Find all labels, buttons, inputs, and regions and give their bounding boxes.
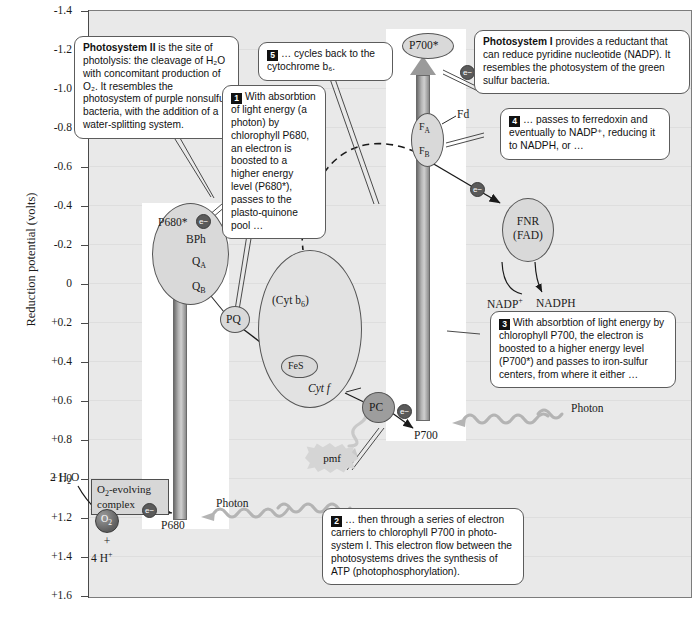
p680-label: P680 — [161, 519, 185, 531]
y-tick-label: +1.6 — [26, 590, 72, 602]
y-tick-label: -1.0 — [26, 83, 72, 95]
fnr-label-line2: (FAD) — [502, 229, 554, 241]
qa-label: QA — [192, 255, 206, 271]
o2-label: O2 — [101, 514, 112, 527]
fa-label: FA — [419, 122, 430, 135]
y-tick-label: +0.8 — [26, 434, 72, 446]
bph-label: BPh — [186, 233, 206, 245]
callout-step2-text: … then through a series of electron carr… — [331, 514, 512, 577]
p680-star-label: P680* — [158, 216, 187, 228]
y-tick-label: -0.8 — [26, 122, 72, 134]
cyt-b6-label: (Cyt b6) — [272, 294, 309, 310]
y-tick-label: 0 — [26, 278, 72, 290]
fb-label: FB — [419, 146, 430, 159]
callout-step3-text: With absorbtion of light energy by chlor… — [499, 317, 664, 380]
callout-psii-bold: Photosystem II — [83, 42, 155, 53]
p700-label: P700 — [414, 429, 438, 441]
plus-sign: + — [95, 535, 119, 547]
y-tick-label: -0.6 — [26, 161, 72, 173]
z-scheme-figure: Reduction potential (volts) -1.4 -1.2 -1… — [0, 0, 698, 625]
callout-step-3[interactable]: 3With absorbtion of light energy by chlo… — [490, 311, 676, 388]
qb-label: QB — [192, 280, 206, 296]
y-tick-label: -1.4 — [26, 5, 72, 17]
callout-psii-text: is the site of photolysis: the cleavage … — [83, 42, 228, 130]
callout-step-4[interactable]: 4… passes to ferredoxin and eventually t… — [500, 108, 670, 160]
electron-icon: e− — [470, 182, 485, 197]
callout-step5-text: … cycles back to the cytochrome b₆. — [267, 48, 375, 72]
callout-step-1[interactable]: 1With absorbtion of light energy (a phot… — [222, 85, 326, 239]
nadp-plus-label: NADP+ — [487, 297, 523, 310]
step-badge-5: 5 — [267, 50, 278, 61]
y-tick-label: +1.4 — [26, 551, 72, 563]
water-label: 2 H2O — [50, 471, 79, 487]
callout-psi-bold: Photosystem I — [483, 36, 553, 47]
cyt-f-label: Cyt f — [308, 382, 330, 394]
step-badge-2: 2 — [331, 516, 342, 527]
electron-icon: e− — [196, 214, 211, 229]
protons-label: 4 H+ — [91, 551, 112, 564]
callout-photosystem-i[interactable]: Photosystem I provides a reductant that … — [474, 30, 690, 94]
y-tick-label: -1.2 — [26, 44, 72, 56]
callout-step-2[interactable]: 2… then through a series of electron car… — [322, 508, 524, 585]
y-tick-label: +0.2 — [26, 317, 72, 329]
fd-label: Fd — [457, 108, 469, 120]
psii-photon-label: Photon — [216, 497, 249, 509]
fnr-label-line1: FNR — [502, 215, 554, 227]
step-badge-1: 1 — [231, 93, 242, 104]
callout-step4-text: … passes to ferredoxin and eventually to… — [509, 114, 655, 151]
step-badge-4: 4 — [509, 116, 520, 127]
callout-photosystem-ii[interactable]: Photosystem II is the site of photolysis… — [74, 36, 239, 139]
y-tick-label: -0.4 — [26, 200, 72, 212]
callout-step-5[interactable]: 5… cycles back to the cytochrome b₆. — [258, 42, 393, 81]
p700-star-label: P700* — [409, 39, 438, 51]
electron-icon: e− — [397, 404, 412, 419]
y-tick-label: +0.6 — [26, 395, 72, 407]
psi-photon-label: Photon — [571, 402, 604, 414]
y-tick-label: +0.4 — [26, 356, 72, 368]
y-tick-label: -0.2 — [26, 239, 72, 251]
pq-label: PQ — [226, 313, 241, 325]
callout-step1-text: With absorbtion of light energy (a photo… — [231, 91, 316, 231]
pc-label: PC — [369, 401, 383, 413]
step-badge-3: 3 — [499, 319, 510, 330]
electron-icon: e− — [460, 65, 475, 80]
y-tick-label: +1.2 — [26, 512, 72, 524]
oec-line1: O2-evolving — [97, 483, 163, 498]
electron-icon: e− — [142, 503, 157, 518]
fes-label: FeS — [288, 361, 304, 372]
nadph-label: NADPH — [536, 297, 576, 309]
